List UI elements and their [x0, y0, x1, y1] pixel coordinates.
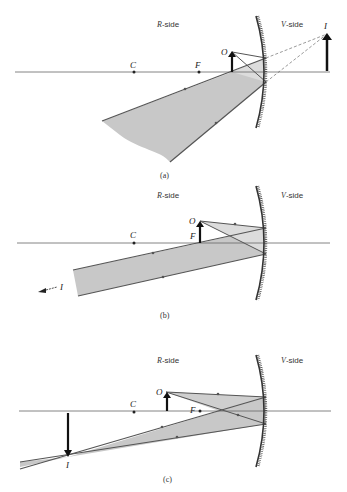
label-o: O [156, 387, 163, 397]
center-point-c-c [133, 411, 136, 414]
r-side-label: R-side [156, 356, 180, 365]
center-point-c-a [133, 71, 136, 74]
v-side-label: V-side [281, 191, 304, 200]
image-direction-arrow [38, 288, 46, 293]
label-c: C [130, 230, 137, 240]
r-side-label: R-side [156, 20, 180, 29]
label-o: O [189, 216, 196, 226]
label-c: C [130, 399, 137, 409]
r-side-label: R-side [156, 191, 180, 200]
label-i: I [65, 460, 70, 470]
caption-b: (b) [160, 311, 170, 320]
label-c: C [130, 60, 137, 70]
panel-c: C F O I R-side V-side (c) [19, 355, 331, 484]
focal-point-f-a [198, 71, 201, 74]
center-point-c-b [133, 242, 136, 245]
panel-b: C F O I R-side V-side (b) [17, 186, 330, 320]
label-i: I [59, 282, 64, 292]
label-o: O [221, 47, 228, 57]
panel-a: C F O I R-side V-side (a) [15, 16, 332, 180]
v-side-label: V-side [281, 20, 304, 29]
label-f: F [189, 231, 196, 241]
label-f: F [189, 405, 196, 415]
caption-c: (c) [163, 475, 172, 484]
v-side-label: V-side [281, 356, 304, 365]
focal-point-f-c [199, 410, 202, 413]
caption-a: (a) [160, 171, 169, 180]
concave-mirror-figure: C F O I R-side V-side (a) C F O I R-side… [0, 0, 347, 492]
label-i: I [323, 21, 328, 31]
label-f: F [194, 60, 201, 70]
